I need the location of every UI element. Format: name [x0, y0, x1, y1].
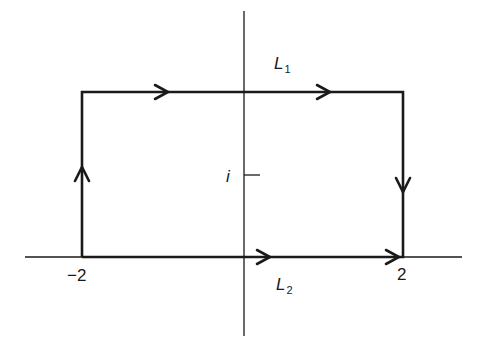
label-L2: L2	[276, 276, 293, 296]
label-L1-base: L	[274, 54, 283, 73]
contour-path	[82, 92, 403, 257]
label-L2-sub: 2	[286, 284, 292, 296]
label-i: i	[226, 168, 230, 185]
label-two: 2	[397, 266, 406, 283]
diagram-graphics	[0, 0, 489, 353]
label-L1: L1	[274, 55, 291, 75]
contour-diagram: L1 L2 i −2 2	[0, 0, 489, 353]
label-L2-base: L	[276, 275, 285, 294]
label-minus-two: −2	[67, 267, 86, 284]
label-L1-sub: 1	[284, 63, 290, 75]
